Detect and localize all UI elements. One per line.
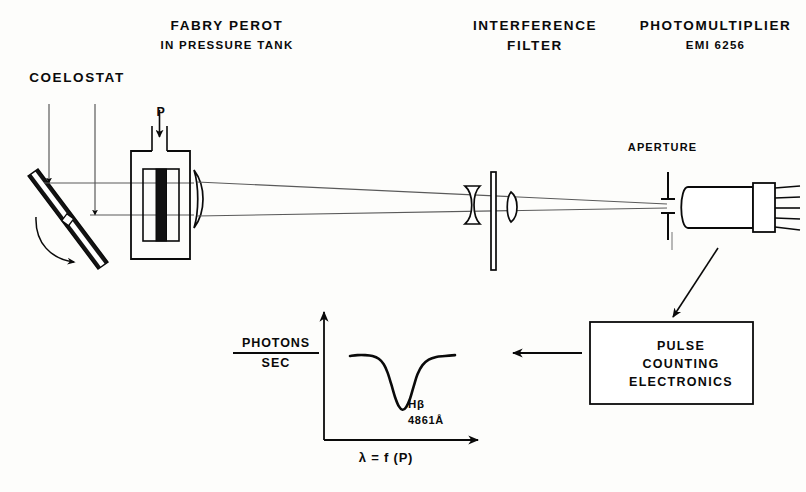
x-axis-label: λ = f (P) [330, 450, 442, 465]
pmt-pins [775, 186, 800, 230]
label-fabry-perot: FABRY PEROT [127, 18, 327, 35]
objective-lens [194, 170, 203, 228]
fraction-bar [233, 352, 319, 354]
y-axis-label: PHOTONS SEC [233, 336, 319, 370]
figure-canvas: FABRY PEROT IN PRESSURE TANK COELOSTAT I… [0, 0, 806, 492]
diagonal-arrow-icon [673, 248, 718, 317]
signal-flow-arrow [672, 232, 718, 317]
label-photomultiplier-model: EMI 6256 [628, 38, 803, 52]
label-interference-filter: INTERFERENCE [455, 18, 615, 35]
label-aperture: APERTURE [600, 141, 725, 155]
pmt-envelope [681, 187, 753, 228]
aperture-stop [661, 172, 675, 240]
fabry-perot-etalon [156, 169, 167, 241]
label-fabry-perot-sub: IN PRESSURE TANK [127, 38, 327, 52]
spectral-line-annotation: Hβ 4861Å [408, 396, 488, 429]
electronics-line-3: ELECTRONICS [629, 375, 733, 389]
y-axis-label-numerator: PHOTONS [233, 336, 319, 351]
pmt-base [753, 183, 775, 232]
electronics-line-2: COUNTING [642, 357, 719, 371]
annotation-wavelength: 4861Å [408, 413, 488, 429]
annotation-line-name: Hβ [408, 396, 488, 413]
label-coelostat: COELOSTAT [12, 70, 142, 87]
electronics-line-1: PULSE [657, 339, 705, 353]
interference-filter [491, 172, 496, 270]
label-photomultiplier: PHOTOMULTIPLIER [628, 18, 803, 35]
y-axis-label-denominator: SEC [233, 356, 319, 370]
photomultiplier-tube [681, 183, 800, 232]
electronics-box-label: PULSE COUNTING ELECTRONICS [592, 337, 770, 391]
condenser-lens [507, 192, 517, 222]
label-pressure-inlet: P [150, 105, 172, 121]
field-lens-concave [465, 186, 480, 224]
coelostat-mirror [28, 169, 108, 269]
pressure-tank [131, 110, 190, 259]
converging-beam [197, 182, 667, 216]
label-interference-filter-sub: FILTER [455, 38, 615, 55]
